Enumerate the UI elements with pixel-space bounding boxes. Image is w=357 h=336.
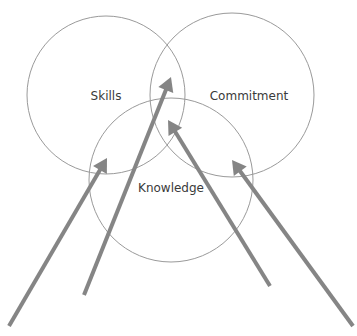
arrows-group bbox=[9, 77, 353, 326]
venn-diagram: Skills Commitment Knowledge bbox=[0, 0, 357, 336]
arrow-1-shaft bbox=[9, 168, 101, 326]
arrow-4-head-icon bbox=[232, 160, 247, 176]
labels-group: Skills Commitment Knowledge bbox=[91, 89, 289, 195]
arrow-3-shaft bbox=[174, 130, 270, 286]
knowledge-label: Knowledge bbox=[138, 181, 204, 195]
arrow-4-shaft bbox=[239, 170, 353, 326]
commitment-label: Commitment bbox=[210, 89, 289, 103]
skills-label: Skills bbox=[91, 89, 122, 103]
